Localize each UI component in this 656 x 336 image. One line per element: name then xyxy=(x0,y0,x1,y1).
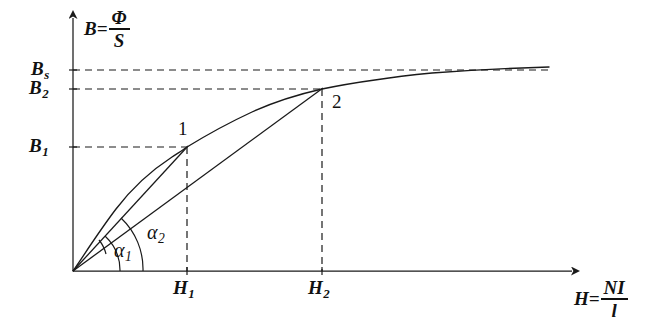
x-axis-label-fraction: NI l xyxy=(601,278,628,320)
y-tick-sub-b1: 1 xyxy=(42,144,48,159)
x-tick-sub-h1: 1 xyxy=(188,286,194,301)
angle-label-alpha1: α1 xyxy=(114,240,132,264)
y-axis-label-lead: B= xyxy=(84,18,108,40)
y-tick-sub-b2: 2 xyxy=(42,86,48,101)
y-tick-base-b1: B xyxy=(29,135,42,156)
x-tick-label-h2: H2 xyxy=(308,278,330,301)
magnetization-curve-figure: B= Φ S H= NI l Bs B2 B1 H1 H2 1 2 α1 xyxy=(0,0,656,336)
magnetization-curve xyxy=(73,67,549,271)
x-tick-label-h1: H1 xyxy=(173,278,195,301)
angle-base-alpha1: α xyxy=(114,239,125,261)
x-axis-label-lead: H= xyxy=(574,288,600,310)
x-tick-base-h1: H xyxy=(173,277,188,298)
secant-line-to-point-2 xyxy=(73,88,323,271)
x-axis-quantity-label: H= NI l xyxy=(574,278,628,320)
y-axis-label-fraction: Φ S xyxy=(109,8,130,50)
angle-label-alpha2: α2 xyxy=(147,222,165,246)
y-tick-base-bs: B xyxy=(31,58,44,79)
y-axis-denominator: S xyxy=(111,30,128,50)
x-axis-denominator: l xyxy=(609,300,620,320)
angle-sub-alpha1: 1 xyxy=(125,249,132,264)
x-tick-sub-h2: 2 xyxy=(323,286,329,301)
y-axis-numerator: Φ xyxy=(109,8,130,28)
y-tick-label-b1: B1 xyxy=(29,136,49,159)
x-axis-numerator: NI xyxy=(601,278,628,298)
y-tick-label-b2: B2 xyxy=(29,78,49,101)
x-tick-base-h2: H xyxy=(308,277,323,298)
curve-point-label-2: 2 xyxy=(332,92,342,111)
y-tick-base-b2: B xyxy=(29,77,42,98)
curve-point-label-1: 1 xyxy=(178,119,188,138)
angle-sub-alpha2: 2 xyxy=(158,231,165,246)
y-axis-quantity-label: B= Φ S xyxy=(84,8,130,50)
angle-base-alpha2: α xyxy=(147,221,158,243)
